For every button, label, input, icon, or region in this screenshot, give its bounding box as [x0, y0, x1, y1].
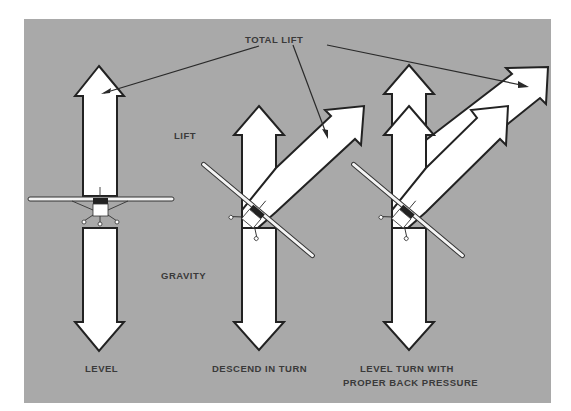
gravity-arrow-down-icon-2 — [234, 228, 284, 350]
gravity-label: GRAVITY — [161, 270, 206, 281]
gravity-arrow-down-icon-3 — [384, 228, 434, 350]
lift-arrow-up-icon — [75, 66, 124, 196]
caption-level-turn-line2: PROPER BACK PRESSURE — [343, 377, 478, 388]
diagram-canvas: TOTAL LIFT LIFT GRAVITY LEVEL DESCEND IN… — [0, 0, 571, 411]
total-lift-label: TOTAL LIFT — [245, 34, 303, 45]
level-panel — [28, 66, 174, 351]
lift-label: LIFT — [174, 130, 196, 141]
force-vectors-illustration — [0, 0, 571, 411]
descend-in-turn-panel — [186, 106, 364, 350]
caption-level: LEVEL — [85, 363, 118, 374]
gravity-arrow-down-icon — [75, 228, 124, 351]
caption-level-turn-line1: LEVEL TURN WITH — [360, 363, 454, 374]
level-turn-panel — [336, 65, 548, 350]
caption-descend-in-turn: DESCEND IN TURN — [212, 363, 307, 374]
